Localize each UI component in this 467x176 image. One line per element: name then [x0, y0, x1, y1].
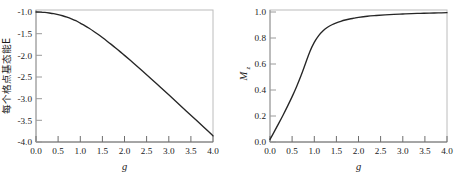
right-plot-svg: 0.0 0.5 1.0 1.5 2.0 2.5 3.0 3.5 4.0 1.0 …: [234, 0, 467, 176]
left-xtick-label-8: 4.0: [207, 146, 219, 156]
left-xtick-label-0: 0.0: [30, 146, 42, 156]
left-plot-svg: 0.0 0.5 1.0 1.5 2.0 2.5 3.0 3.5 4.0 -1.0…: [0, 0, 233, 176]
right-xtick-label-7: 3.5: [419, 146, 431, 156]
left-xtick-label-3: 1.5: [97, 146, 109, 156]
right-xtick-label-1: 0.5: [286, 146, 298, 156]
right-plot-frame: [270, 10, 447, 142]
left-ytick-label-6: -4.0: [17, 137, 32, 147]
left-ytick-label-5: -3.5: [17, 116, 32, 126]
magnetization-plot: 0.0 0.5 1.0 1.5 2.0 2.5 3.0 3.5 4.0 1.0 …: [234, 0, 467, 176]
right-xtick-label-6: 3.0: [397, 146, 409, 156]
right-ytick-label-5: 0.0: [255, 137, 267, 147]
right-xtick-label-3: 1.5: [331, 146, 343, 156]
right-y-axis-title: M z: [238, 66, 252, 81]
right-xtick-label-5: 2.5: [375, 146, 387, 156]
left-xtick-label-6: 3.0: [163, 146, 175, 156]
left-xtick-label-7: 3.5: [185, 146, 197, 156]
right-x-axis-title: g: [356, 161, 361, 172]
right-ytick-label-2: 0.6: [255, 59, 267, 69]
right-y-axis-title-symbol: M: [238, 70, 249, 81]
left-ytick-label-3: -2.5: [17, 72, 32, 82]
right-xtick-label-8: 4.0: [441, 146, 453, 156]
left-ytick-label-2: -2.0: [17, 51, 32, 61]
left-ytick-label-4: -3.0: [17, 94, 32, 104]
left-x-axis-title: g: [122, 161, 127, 172]
figure-container: 0.0 0.5 1.0 1.5 2.0 2.5 3.0 3.5 4.0 -1.0…: [0, 0, 467, 176]
left-xtick-label-5: 2.5: [141, 146, 153, 156]
left-xtick-label-1: 0.5: [52, 146, 64, 156]
right-ytick-label-3: 0.4: [255, 85, 267, 95]
left-ytick-label-0: -1.0: [17, 7, 32, 17]
right-ytick-label-1: 0.8: [255, 33, 267, 43]
left-ytick-label-1: -1.5: [17, 29, 32, 39]
left-y-axis-title: 每个格点基态能E: [1, 38, 12, 114]
left-xtick-label-2: 1.0: [75, 146, 87, 156]
right-ytick-label-4: 0.2: [255, 111, 267, 121]
right-y-axis-title-subscript: z: [244, 66, 252, 70]
right-ytick-label-0: 1.0: [255, 7, 267, 17]
right-xtick-label-0: 0.0: [264, 146, 276, 156]
ground-state-energy-plot: 0.0 0.5 1.0 1.5 2.0 2.5 3.0 3.5 4.0 -1.0…: [0, 0, 233, 176]
left-plot-frame: [36, 10, 213, 142]
right-xtick-label-2: 1.0: [309, 146, 321, 156]
left-xtick-label-4: 2.0: [119, 146, 131, 156]
right-xtick-label-4: 2.0: [353, 146, 365, 156]
